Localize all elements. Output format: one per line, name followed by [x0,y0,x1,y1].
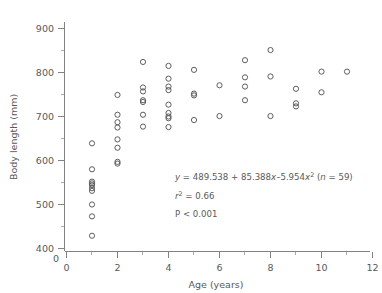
equation-n-value: = 59) [326,172,353,182]
r-squared-value: = 0.66 [183,191,215,201]
x-axis-title: Age (years) [189,279,244,290]
y-tick-label-700: 700 [36,111,54,122]
data-point [140,89,145,94]
data-point [319,69,324,74]
x-tick-label-10: 10 [315,262,327,273]
data-point [115,137,120,142]
equation-text: y = 489.538 + 85.388x–5.954x2 (n = 59) [174,171,353,182]
data-point [242,84,247,89]
r-squared-text: r2 = 0.66 [175,190,214,201]
data-point [242,98,247,103]
x-tick-label-2: 2 [114,262,120,273]
data-point [242,58,247,63]
data-point [89,202,94,207]
data-point [344,69,349,74]
data-point [140,124,145,129]
x-tick-label-4: 4 [165,262,171,273]
data-point [115,112,120,117]
data-point [89,141,94,146]
data-point [89,233,94,238]
data-point [191,67,196,72]
data-point [191,117,196,122]
data-point [217,83,222,88]
data-point [166,124,171,129]
y-tick-label-800: 800 [36,67,54,78]
y-tick-label-900: 900 [36,23,54,34]
data-point [89,167,94,172]
y-tick-label-600: 600 [36,155,54,166]
chart-canvas: 900 800 700 600 500 400 0 Body length (m… [0,0,382,293]
data-point [166,102,171,107]
data-point [268,74,273,79]
data-point [115,92,120,97]
data-point [115,145,120,150]
data-point [89,214,94,219]
data-point [242,75,247,80]
y-axis-tick-labels: 900 800 700 600 500 400 0 [36,23,59,264]
y-axis-break-label: 0 [53,253,59,264]
x-tick-label-0: 0 [63,262,69,273]
x-tick-label-8: 8 [267,262,273,273]
data-point [166,76,171,81]
y-axis-ticks [58,29,64,249]
y-tick-label-500: 500 [36,199,54,210]
data-point [140,59,145,64]
data-point [293,104,298,109]
data-point [140,112,145,117]
y-axis-title: Body length (mm) [8,94,19,180]
x-axis-ticks [67,252,373,258]
scatter-plot-figure: 900 800 700 600 500 400 0 Body length (m… [0,0,382,293]
data-point [115,120,120,125]
data-points-layer [89,47,349,238]
x-tick-label-12: 12 [366,262,378,273]
data-point [115,125,120,130]
regression-annotation: y = 489.538 + 85.388x–5.954x2 (n = 59) r… [174,171,353,219]
data-point [166,63,171,68]
y-tick-label-400: 400 [36,243,54,254]
data-point [319,90,324,95]
equation-body: = 489.538 + 85.388 [180,172,271,182]
data-point [166,88,171,93]
x-axis-tick-labels: 0 2 4 6 8 10 12 [63,262,378,273]
equation-mid: –5.954 [276,172,305,182]
x-tick-label-6: 6 [216,262,222,273]
data-point [268,113,273,118]
data-point [268,47,273,52]
p-value-text: P < 0.001 [175,209,217,219]
data-point [293,86,298,91]
data-point [217,113,222,118]
